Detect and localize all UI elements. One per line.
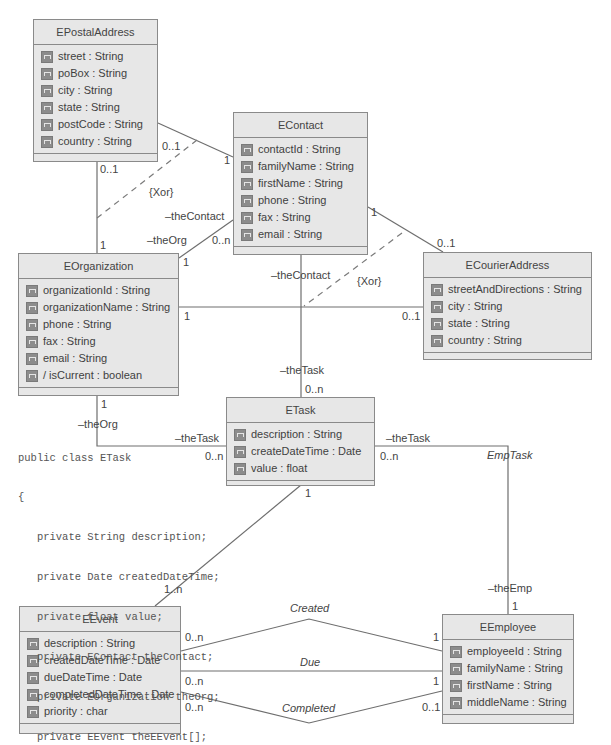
class-econtact[interactable]: EContact contactId : String familyName :…: [233, 112, 368, 255]
attribute: organizationName : String: [26, 299, 178, 316]
association-name-label: EmpTask: [487, 449, 532, 461]
attribute-icon: [450, 663, 462, 675]
operations-compartment: [227, 481, 374, 494]
multiplicity-label: 1: [100, 239, 106, 251]
multiplicity-label: 1: [101, 398, 107, 410]
attribute: familyName : String: [450, 660, 573, 677]
attribute: streetAndDirections : String: [431, 281, 591, 298]
code-line: private String description;: [18, 531, 220, 544]
attribute: state : String: [41, 99, 157, 116]
attribute-icon: [431, 318, 443, 330]
attribute-icon: [26, 302, 38, 314]
multiplicity-label: 1: [433, 631, 439, 643]
attribute-list: organizationId : String organizationName…: [19, 279, 178, 388]
attribute-icon: [26, 370, 38, 382]
role-label: –theContact: [165, 210, 224, 222]
multiplicity-label: 0..1: [402, 310, 420, 322]
attribute-icon: [450, 646, 462, 658]
association-name-label: Created: [290, 602, 329, 614]
class-epostaladdress[interactable]: EPostalAddress street : String poBox : S…: [33, 19, 158, 162]
attribute: description : String: [234, 426, 374, 443]
attribute-list: street : String poBox : String city : St…: [34, 45, 157, 154]
multiplicity-label: 1: [512, 600, 518, 612]
attribute-icon: [41, 102, 53, 114]
attribute: createDateTime : Date: [234, 443, 374, 460]
attribute-icon: [431, 335, 443, 347]
attribute-icon: [241, 144, 253, 156]
attribute: street : String: [41, 48, 157, 65]
role-label: –theEmp: [488, 582, 532, 594]
code-line: private float value;: [18, 611, 220, 624]
class-name: EContact: [234, 113, 367, 138]
attribute-icon: [26, 353, 38, 365]
role-label: –theTask: [386, 432, 430, 444]
attribute-list: description : String createDateTime : Da…: [227, 423, 374, 481]
attribute-list: streetAndDirections : String city : Stri…: [424, 278, 591, 353]
multiplicity-label: 0..1: [437, 237, 455, 249]
attribute-icon: [234, 446, 246, 458]
multiplicity-label: 1: [224, 154, 230, 166]
attribute: fax : String: [26, 333, 178, 350]
attribute: fax : String: [241, 209, 367, 226]
attribute-icon: [26, 319, 38, 331]
attribute: firstName : String: [450, 677, 573, 694]
attribute: poBox : String: [41, 65, 157, 82]
attribute-icon: [41, 85, 53, 97]
attribute-icon: [41, 136, 53, 148]
attribute-icon: [431, 284, 443, 296]
multiplicity-label: 0..1: [100, 163, 118, 175]
attribute-icon: [241, 212, 253, 224]
multiplicity-label: 0..n: [305, 383, 323, 395]
code-line: private Date createdDateTime;: [18, 571, 220, 584]
attribute: / isCurrent : boolean: [26, 367, 178, 384]
operations-compartment: [19, 388, 178, 401]
attribute-icon: [431, 301, 443, 313]
attribute: city : String: [41, 82, 157, 99]
association-name-label: Due: [300, 656, 320, 668]
attribute-list: contactId : String familyName : String f…: [234, 138, 367, 247]
class-name: EEmployee: [443, 615, 573, 640]
class-eemployee[interactable]: EEmployee employeeId : String familyName…: [442, 614, 574, 724]
multiplicity-label: 1: [184, 310, 190, 322]
multiplicity-label: 0..n: [212, 234, 230, 246]
attribute: employeeId : String: [450, 643, 573, 660]
multiplicity-label: 1: [433, 675, 439, 687]
multiplicity-label: 0..n: [380, 450, 398, 462]
multiplicity-label: 0..1: [162, 140, 180, 152]
attribute: familyName : String: [241, 158, 367, 175]
class-eorganization[interactable]: EOrganization organizationId : String or…: [18, 253, 179, 396]
attribute: phone : String: [26, 316, 178, 333]
attribute: contactId : String: [241, 141, 367, 158]
attribute-icon: [234, 429, 246, 441]
attribute-icon: [234, 463, 246, 475]
class-name: ECourierAddress: [424, 253, 591, 278]
java-code-snippet: public class ETask { private String desc…: [18, 425, 220, 745]
attribute-icon: [241, 229, 253, 241]
attribute-icon: [41, 68, 53, 80]
operations-compartment: [443, 715, 573, 728]
attribute: email : String: [26, 350, 178, 367]
attribute-icon: [241, 195, 253, 207]
xor-constraint-label: {Xor}: [149, 186, 173, 198]
role-label: –theOrg: [147, 234, 187, 246]
attribute-icon: [241, 178, 253, 190]
class-name: EOrganization: [19, 254, 178, 279]
role-label: –theTask: [280, 364, 324, 376]
code-line: private EOrganization theOrg;: [18, 691, 220, 704]
attribute-icon: [450, 697, 462, 709]
attribute: country : String: [431, 332, 591, 349]
attribute: postCode : String: [41, 116, 157, 133]
code-line: private EEvent theEEvent[];: [18, 731, 220, 744]
class-ecourieraddress[interactable]: ECourierAddress streetAndDirections : St…: [423, 252, 592, 360]
class-etask[interactable]: ETask description : String createDateTim…: [226, 397, 375, 486]
attribute: organizationId : String: [26, 282, 178, 299]
xor-constraint-label: {Xor}: [357, 275, 381, 287]
attribute: middleName : String: [450, 694, 573, 711]
association-name-label: Completed: [282, 702, 335, 714]
attribute-icon: [26, 285, 38, 297]
role-label: –theContact: [271, 269, 330, 281]
attribute-icon: [41, 51, 53, 63]
attribute: city : String: [431, 298, 591, 315]
attribute: phone : String: [241, 192, 367, 209]
code-line: public class ETask: [18, 452, 220, 465]
